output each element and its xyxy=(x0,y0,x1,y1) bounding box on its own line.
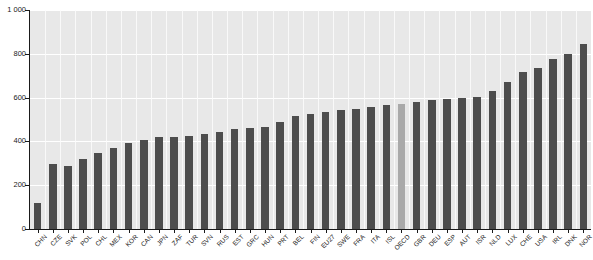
x-axis-category-label: EST xyxy=(231,233,245,247)
bar xyxy=(246,128,254,229)
bar xyxy=(443,99,451,229)
y-axis-tick-mark xyxy=(25,10,30,11)
bar xyxy=(398,104,406,229)
x-axis-category-label: DNK xyxy=(564,233,579,248)
bar xyxy=(504,82,512,229)
chart-title xyxy=(0,0,592,2)
x-axis-category-label: ZAF xyxy=(170,233,184,247)
bar xyxy=(383,105,391,229)
bar xyxy=(64,166,72,230)
bar xyxy=(580,44,588,229)
bar xyxy=(534,68,542,229)
bar xyxy=(337,110,345,229)
x-axis-category-labels: CHNCZESVKPOLCHLMEXKORCANJPNZAFTURSVNRUSE… xyxy=(30,233,591,260)
bar xyxy=(276,122,284,229)
bar xyxy=(428,100,436,229)
bar xyxy=(170,137,178,229)
bar xyxy=(140,140,148,229)
x-axis-category-label: USA xyxy=(533,233,547,247)
x-axis-category-label: DEU xyxy=(427,233,442,248)
bar xyxy=(367,107,375,229)
bar xyxy=(155,137,163,229)
x-axis-category-label: CHL xyxy=(94,233,108,247)
bar xyxy=(352,109,360,229)
x-axis-category-label: NLD xyxy=(488,233,502,247)
x-axis-category-label: MEX xyxy=(108,233,123,248)
x-axis-category-label: IRL xyxy=(551,233,563,245)
x-axis-category-label: ESP xyxy=(443,233,457,247)
bar xyxy=(49,164,57,229)
x-axis-category-label: CAN xyxy=(139,233,154,248)
bar xyxy=(34,203,42,229)
bar xyxy=(231,129,239,229)
x-axis-category-label: EU27 xyxy=(319,233,335,249)
x-axis-category-label: CHE xyxy=(518,233,533,248)
x-axis-category-label: HUN xyxy=(260,233,275,248)
y-axis-tick-label: 800 xyxy=(2,50,26,58)
bar xyxy=(125,143,133,230)
y-axis-tick-mark xyxy=(25,185,30,186)
x-axis-category-label: RUS xyxy=(215,233,230,248)
x-axis-category-label: SWE xyxy=(335,233,350,248)
bar xyxy=(94,153,102,229)
bar xyxy=(413,102,421,229)
x-axis-category-label: SVN xyxy=(200,233,214,247)
x-axis-category-label: FRA xyxy=(352,233,366,247)
bar xyxy=(519,72,527,229)
x-axis-category-label: LUX xyxy=(504,233,518,247)
bar xyxy=(307,114,315,229)
x-axis-category-label: KOR xyxy=(124,233,139,248)
x-axis-category-label: NOR xyxy=(578,233,593,248)
x-axis-category-label: GRC xyxy=(245,233,260,248)
x-axis-category-label: CHN xyxy=(33,233,48,248)
x-axis-category-label: CZE xyxy=(49,233,63,247)
bar xyxy=(489,91,497,229)
x-axis-category-label: JPN xyxy=(155,233,169,247)
x-axis-category-label: GBR xyxy=(412,233,427,248)
x-axis-category-label: AUT xyxy=(458,233,472,247)
x-axis-category-label: BEL xyxy=(292,233,306,247)
bar xyxy=(322,112,330,229)
x-axis-category-label: TUR xyxy=(185,233,199,247)
y-axis-tick-mark xyxy=(25,141,30,142)
y-axis-tick-labels: 02004006008001 000 xyxy=(0,0,26,260)
bar xyxy=(564,54,572,229)
plot-area xyxy=(30,10,591,229)
bars-layer xyxy=(30,10,591,229)
bar xyxy=(79,159,87,229)
y-axis-tick-label: 1 000 xyxy=(2,6,26,14)
y-axis-tick-mark xyxy=(25,229,30,230)
x-axis-category-label: ITA xyxy=(369,233,381,245)
bar xyxy=(261,127,269,229)
bar xyxy=(110,148,118,229)
x-axis-category-label: ISR xyxy=(475,233,488,246)
y-axis-tick-mark xyxy=(25,54,30,55)
bar xyxy=(201,134,209,229)
bar xyxy=(458,98,466,229)
y-axis-tick-label: 200 xyxy=(2,181,26,189)
bar xyxy=(185,136,193,229)
bar xyxy=(473,97,481,229)
y-axis-tick-label: 0 xyxy=(2,225,26,233)
x-axis-category-label: SVK xyxy=(64,233,78,247)
bar xyxy=(549,59,557,229)
x-axis-category-label: PRT xyxy=(276,233,290,247)
x-axis-category-label: OECD xyxy=(393,233,411,251)
bar xyxy=(216,132,224,229)
bar xyxy=(292,116,300,229)
y-axis-tick-mark xyxy=(25,98,30,99)
y-axis-tick-label: 600 xyxy=(2,94,26,102)
x-axis-category-label: POL xyxy=(79,233,93,247)
y-axis-tick-label: 400 xyxy=(2,137,26,145)
